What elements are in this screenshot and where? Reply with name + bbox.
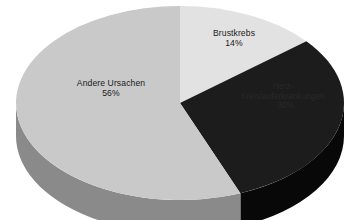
slice-label-herz-name: Herz-Kreislauferkrankungen xyxy=(240,82,326,101)
pie-slices-group xyxy=(16,6,344,220)
slice-label-andere-value: 56% xyxy=(56,88,166,98)
slice-label-andere: Andere Ursachen 56% xyxy=(56,78,166,98)
slice-label-brustkrebs-value: 14% xyxy=(186,38,282,48)
slice-label-herz: Herz-Kreislauferkrankungen 30% xyxy=(240,82,332,111)
slice-label-brustkrebs-name: Brustkrebs xyxy=(186,28,282,38)
pie-chart: Brustkrebs 14% Herz-Kreislauferkrankunge… xyxy=(0,0,360,220)
slice-label-brustkrebs: Brustkrebs 14% xyxy=(186,28,282,48)
slice-label-herz-value: 30% xyxy=(240,101,332,111)
slice-label-andere-name: Andere Ursachen xyxy=(56,78,166,88)
